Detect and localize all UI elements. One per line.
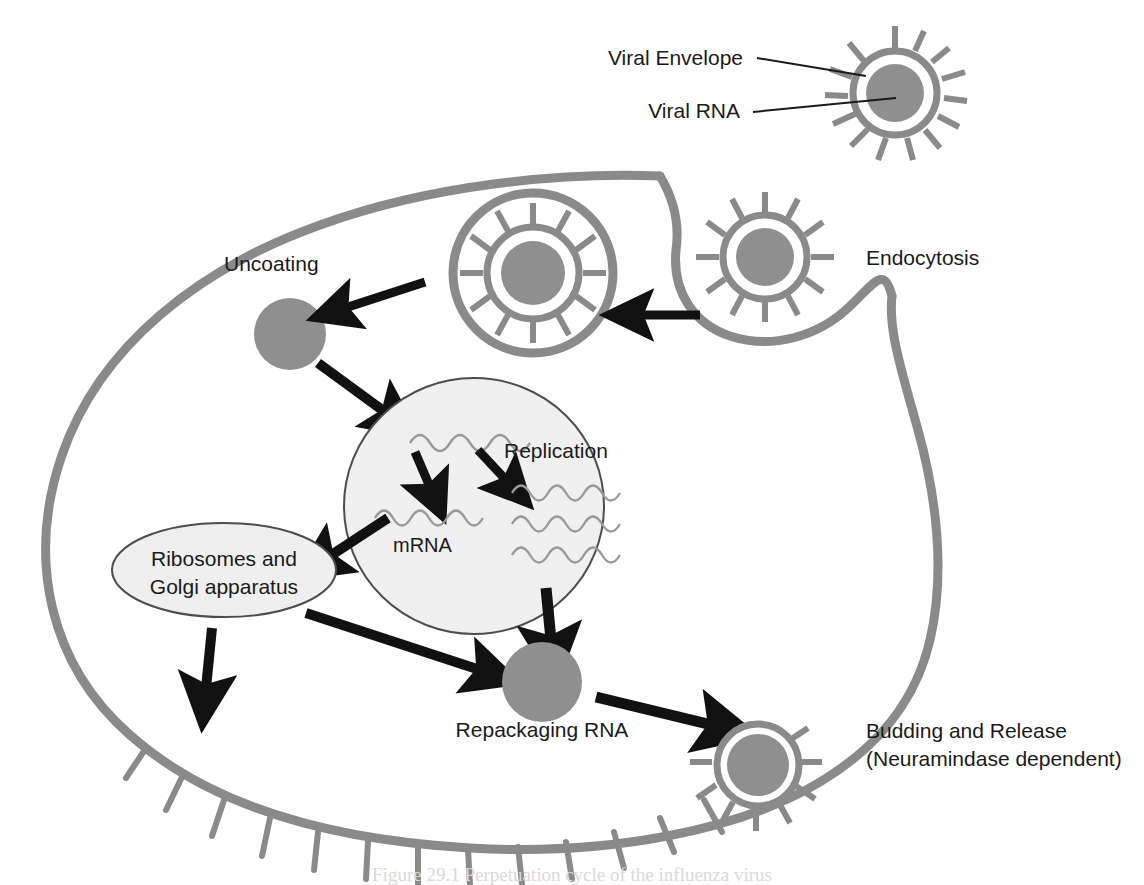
label-budding-line2: (Neuramindase dependent)	[866, 747, 1122, 770]
figure-caption: Figure 29.1 Perpetuation cycle of the in…	[0, 862, 1144, 885]
arrow-nucleus-to-repackaging	[546, 588, 551, 640]
label-budding-line1: Budding and Release	[866, 719, 1067, 742]
label-viral-envelope: Viral Envelope	[608, 46, 743, 69]
arrow-endosome-to-uncoating	[345, 282, 425, 308]
label-endocytosis: Endocytosis	[866, 246, 979, 269]
label-ribosomes-line2: Golgi apparatus	[150, 575, 298, 598]
figure-root: Viral Envelope Viral RNA	[0, 0, 1144, 885]
label-ribosomes-line1: Ribosomes and	[151, 547, 297, 570]
nucleus: Replication mRNA	[344, 378, 620, 634]
virus-at-membrane	[696, 192, 834, 322]
label-replication: Replication	[504, 439, 608, 462]
viral-rna-core	[866, 64, 924, 122]
leader-viral-envelope	[757, 58, 866, 76]
endosome-with-virus	[453, 193, 613, 353]
label-viral-rna: Viral RNA	[648, 99, 740, 122]
ribosomes-golgi-organelle: Ribosomes and Golgi apparatus	[112, 523, 336, 617]
influenza-replication-diagram: Viral Envelope Viral RNA	[0, 0, 1144, 885]
label-uncoating: Uncoating	[224, 252, 319, 275]
label-repackaging-rna: Repackaging RNA	[456, 718, 629, 741]
repackaged-rna-core	[502, 642, 582, 722]
arrow-uncoating-to-nucleus	[318, 363, 385, 412]
arrow-organelle-to-membrane	[206, 628, 212, 688]
label-mrna: mRNA	[393, 534, 453, 556]
free-virus-particle	[825, 26, 967, 160]
uncoated-rna-core	[254, 298, 326, 370]
